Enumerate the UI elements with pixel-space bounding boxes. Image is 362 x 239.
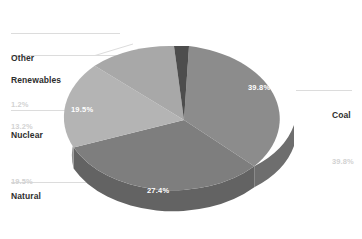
slice-label-renewables: 13.2% [124,37,146,46]
callout-coal-percent: 39.8% [332,157,354,167]
pie-chart: 39.8% 27.4% 19.5% 13.2% Other 1.2% Renew… [0,0,362,238]
slice-label-coal: 39.8% [248,83,270,92]
callout-coal-label: Coal [332,110,354,121]
pie-top-face [64,46,280,190]
callout-natural-gas-label-line1: Natural [11,191,41,202]
callout-natural-gas-label-line2: Gas [11,238,41,239]
callout-nuclear-label: Nuclear [11,130,43,141]
slice-label-nuclear: 19.5% [71,105,93,114]
callout-renewables-label: Renewables [11,75,61,86]
slice-label-natural-gas: 27.4% [147,186,169,195]
callout-coal[interactable]: Coal 39.8% [332,74,354,203]
callout-natural-gas[interactable]: Natural Gas 27.4% [11,155,41,238]
